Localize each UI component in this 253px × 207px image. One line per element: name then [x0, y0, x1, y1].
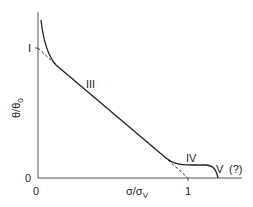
y-tick-one-label: I	[28, 42, 31, 54]
hardening-diagram: I 0 0 1 III IV V (?) σ/σV θ/θ0	[0, 0, 253, 207]
y-tick-zero-label: 0	[25, 172, 31, 184]
stage-v-note: (?)	[229, 163, 242, 175]
stage-iv-label: IV	[186, 152, 197, 164]
x-tick-one-label: 1	[185, 185, 191, 197]
stage-v-label: V	[216, 163, 224, 175]
stage-iii-label: III	[86, 78, 95, 90]
y-axis-label: θ/θ0	[10, 98, 25, 118]
x-axis-label: σ/σV	[126, 185, 149, 200]
x-tick-zero-label: 0	[33, 185, 39, 197]
stage-iii-extrapolation	[168, 160, 188, 178]
